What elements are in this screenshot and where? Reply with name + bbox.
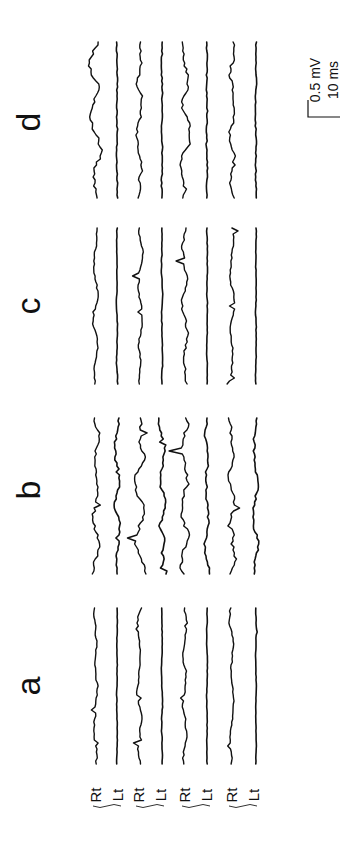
scale-amplitude: 0.5 mV [307, 57, 323, 102]
trace-lt [255, 42, 257, 198]
trace-label-lt: Lt [198, 788, 215, 801]
emg-traces [89, 42, 259, 764]
trace-rt [229, 42, 236, 198]
trace-lt [158, 418, 167, 574]
trace-lt [117, 608, 118, 764]
trace-label-rt: Rt [176, 787, 193, 803]
panel-c [93, 228, 257, 384]
trace-lt [253, 418, 259, 574]
emg-figure: a b c d Rt Lt Rt Lt Rt Lt Rt Lt 0.5 mV 1… [0, 0, 352, 854]
trace-rt [134, 608, 143, 764]
trace-lt [114, 418, 120, 574]
trace-label-rt: Rt [87, 787, 104, 803]
trace-rt [128, 418, 148, 574]
trace-rt [227, 228, 238, 384]
trace-lt [207, 228, 208, 384]
trace-lt [116, 42, 117, 198]
panel-a [91, 608, 257, 764]
trace-lt [207, 608, 208, 764]
trace-rt [89, 42, 103, 198]
trace-rt [228, 418, 240, 574]
scale-bar: 0.5 mV 10 ms [307, 57, 341, 117]
pair-braces [93, 805, 257, 808]
trace-label-lt: Lt [152, 788, 169, 801]
panel-label-a: a [9, 676, 47, 695]
trace-lt [116, 228, 118, 384]
scale-time: 10 ms [325, 61, 341, 99]
trace-rt [136, 42, 143, 198]
trace-lt [161, 42, 163, 198]
panel-label-d: d [9, 113, 47, 132]
trace-lt [161, 228, 163, 384]
trace-rt [91, 608, 98, 764]
trace-label-rt: Rt [223, 787, 240, 803]
panel-d [89, 42, 257, 198]
trace-rt [169, 418, 189, 574]
trace-rt [93, 228, 99, 384]
trace-rt [228, 608, 234, 764]
trace-lt [256, 608, 258, 764]
trace-labels: Rt Lt Rt Lt Rt Lt Rt Lt [87, 787, 262, 803]
trace-lt [161, 608, 162, 764]
panel-b [92, 418, 259, 574]
trace-rt [180, 42, 190, 198]
trace-rt [92, 418, 100, 574]
trace-label-lt: Lt [245, 788, 262, 801]
trace-label-lt: Lt [109, 788, 126, 801]
trace-label-rt: Rt [130, 787, 147, 803]
trace-rt [181, 608, 188, 764]
trace-lt [204, 418, 210, 574]
panel-label-c: c [9, 298, 47, 315]
trace-rt [133, 228, 144, 384]
trace-lt [206, 42, 208, 198]
trace-lt [255, 228, 256, 384]
trace-rt [176, 228, 188, 384]
panel-label-b: b [9, 481, 47, 500]
